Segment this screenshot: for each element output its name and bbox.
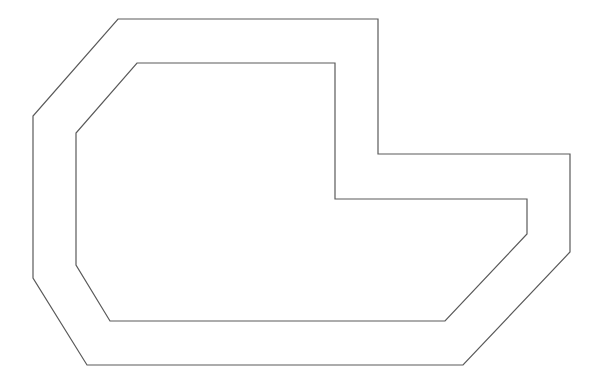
inner-outline	[76, 63, 527, 321]
offset-outline-diagram	[0, 0, 607, 392]
outer-outline	[33, 19, 570, 365]
